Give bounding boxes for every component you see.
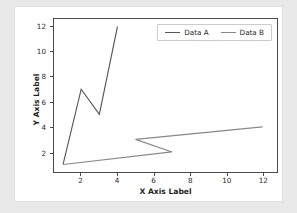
plot-canvas — [54, 19, 277, 172]
y-tick-label: 4 — [41, 123, 46, 132]
chart-legend[interactable]: Data A Data B — [157, 24, 272, 41]
x-tick-label: 6 — [151, 176, 156, 185]
y-axis-title: Y Axis Label — [32, 40, 41, 160]
plot-area: Data A Data B — [53, 18, 278, 173]
x-tick-label: 2 — [78, 176, 83, 185]
legend-label-data-b: Data B — [240, 28, 264, 37]
legend-entry-data-b[interactable]: Data B — [221, 28, 264, 37]
y-tick-mark — [50, 127, 53, 128]
y-tick-mark — [50, 76, 53, 77]
y-tick-label: 8 — [41, 72, 46, 81]
y-tick-label: 12 — [37, 21, 46, 30]
y-tick-mark — [50, 153, 53, 154]
y-tick-mark — [50, 102, 53, 103]
series-line-data-b — [63, 127, 262, 165]
legend-label-data-a: Data A — [184, 28, 208, 37]
x-tick-label: 12 — [259, 176, 268, 185]
legend-line-swatch-data-b — [221, 32, 236, 33]
x-axis-title: X Axis Label — [53, 187, 278, 196]
y-tick-label: 2 — [41, 148, 46, 157]
series-line-data-a — [63, 27, 117, 165]
y-tick-label: 6 — [41, 97, 46, 106]
legend-entry-data-a[interactable]: Data A — [165, 28, 208, 37]
x-tick-label: 8 — [188, 176, 193, 185]
chart-figure-card: Data A Data B 2468101224681012 X Axis La… — [14, 6, 283, 202]
legend-line-swatch-data-a — [165, 32, 180, 33]
y-tick-mark — [50, 51, 53, 52]
x-tick-label: 4 — [115, 176, 120, 185]
y-tick-mark — [50, 26, 53, 27]
x-tick-label: 10 — [222, 176, 231, 185]
